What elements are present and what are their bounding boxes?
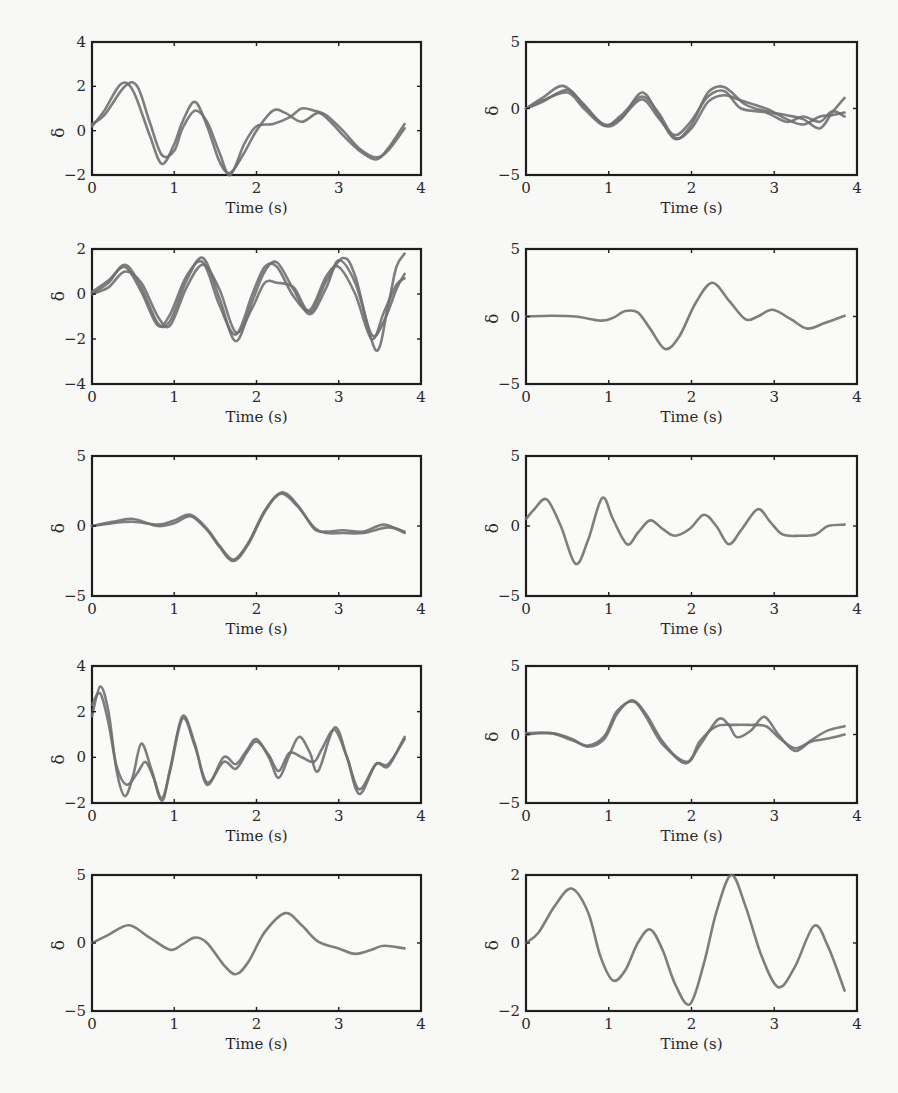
y-tick-label: 0 xyxy=(510,308,520,326)
panel-row3-right: 01234−505Time (s)δ xyxy=(482,447,862,638)
x-axis-label: Time (s) xyxy=(225,408,287,426)
y-tick-label: −5 xyxy=(64,1002,86,1020)
x-axis-label: Time (s) xyxy=(225,1035,287,1053)
x-axis-label: Time (s) xyxy=(660,408,722,426)
x-tick-label: 1 xyxy=(169,807,179,825)
x-axis-label: Time (s) xyxy=(225,827,287,845)
y-tick-label: 2 xyxy=(76,703,86,721)
x-tick-label: 3 xyxy=(334,388,344,406)
y-tick-label: 4 xyxy=(76,657,86,675)
x-tick-label: 0 xyxy=(87,807,97,825)
x-tick-label: 0 xyxy=(521,1015,531,1033)
x-tick-label: 1 xyxy=(604,179,614,197)
x-tick-label: 2 xyxy=(687,179,697,197)
plot-area xyxy=(92,249,421,384)
x-tick-label: 2 xyxy=(252,388,262,406)
x-tick-label: 0 xyxy=(87,388,97,406)
y-tick-label: −5 xyxy=(64,587,86,605)
x-tick-label: 3 xyxy=(769,1015,779,1033)
x-tick-label: 4 xyxy=(852,600,862,618)
y-tick-label: 0 xyxy=(510,726,520,744)
y-tick-label: 4 xyxy=(76,33,86,51)
x-tick-label: 0 xyxy=(521,807,531,825)
plot-area xyxy=(526,666,857,803)
y-tick-label: 0 xyxy=(510,100,520,118)
y-tick-label: 0 xyxy=(76,122,86,140)
y-tick-label: 0 xyxy=(76,285,86,303)
plot-area xyxy=(92,875,421,1011)
x-tick-label: 2 xyxy=(252,1015,262,1033)
x-tick-label: 3 xyxy=(334,600,344,618)
y-axis-label: δ xyxy=(48,523,68,533)
y-tick-label: −5 xyxy=(498,587,520,605)
panel-row2-left: 01234−4−202Time (s)δ xyxy=(48,240,426,426)
x-tick-label: 4 xyxy=(416,600,426,618)
x-tick-label: 2 xyxy=(252,807,262,825)
y-tick-label: 0 xyxy=(510,517,520,535)
x-tick-label: 0 xyxy=(521,600,531,618)
y-axis-label: δ xyxy=(48,291,68,301)
y-tick-label: 0 xyxy=(76,748,86,766)
plot-area xyxy=(526,42,857,175)
y-tick-label: −2 xyxy=(498,1002,520,1020)
x-tick-label: 1 xyxy=(169,179,179,197)
x-tick-label: 2 xyxy=(687,388,697,406)
x-tick-label: 2 xyxy=(252,179,262,197)
y-axis-label: δ xyxy=(48,754,68,764)
y-tick-label: −2 xyxy=(64,330,86,348)
y-tick-label: 5 xyxy=(76,866,86,884)
y-axis-label: δ xyxy=(482,940,502,950)
panel-row1-left: 01234−2024Time (s)δ xyxy=(48,33,426,217)
y-tick-label: −2 xyxy=(64,166,86,184)
x-tick-label: 3 xyxy=(769,179,779,197)
y-axis-label: δ xyxy=(482,523,502,533)
y-axis-label: δ xyxy=(482,105,502,115)
x-tick-label: 3 xyxy=(769,600,779,618)
panel-row4-left: 01234−2024Time (s)δ xyxy=(48,657,426,845)
panel-row1-right: 01234−505Time (s)δ xyxy=(482,33,862,217)
y-tick-label: −5 xyxy=(498,794,520,812)
x-tick-label: 4 xyxy=(852,1015,862,1033)
x-axis-label: Time (s) xyxy=(660,199,722,217)
x-tick-label: 3 xyxy=(769,807,779,825)
y-tick-label: 5 xyxy=(510,657,520,675)
figure-canvas: 01234−2024Time (s)δ01234−505Time (s)δ012… xyxy=(0,0,898,1093)
x-tick-label: 0 xyxy=(87,600,97,618)
y-tick-label: 5 xyxy=(510,447,520,465)
x-tick-label: 1 xyxy=(169,1015,179,1033)
x-tick-label: 1 xyxy=(169,388,179,406)
x-tick-label: 0 xyxy=(521,388,531,406)
x-tick-label: 0 xyxy=(521,179,531,197)
x-axis-label: Time (s) xyxy=(660,620,722,638)
y-tick-label: 0 xyxy=(76,517,86,535)
x-tick-label: 4 xyxy=(416,179,426,197)
x-tick-label: 2 xyxy=(687,1015,697,1033)
x-tick-label: 4 xyxy=(852,179,862,197)
x-tick-label: 1 xyxy=(604,600,614,618)
x-tick-label: 2 xyxy=(687,600,697,618)
y-axis-label: δ xyxy=(482,313,502,323)
x-tick-label: 0 xyxy=(87,1015,97,1033)
y-axis-label: δ xyxy=(48,128,68,138)
x-tick-label: 2 xyxy=(252,600,262,618)
y-tick-label: −4 xyxy=(64,375,86,393)
panel-row5-left: 01234−505Time (s)δ xyxy=(48,866,426,1053)
y-tick-label: 5 xyxy=(510,33,520,51)
panel-row3-left: 01234−505Time (s)δ xyxy=(48,447,426,638)
y-tick-label: 2 xyxy=(510,866,520,884)
y-tick-label: 2 xyxy=(76,77,86,95)
x-tick-label: 1 xyxy=(169,600,179,618)
x-tick-label: 0 xyxy=(87,179,97,197)
x-tick-label: 3 xyxy=(334,179,344,197)
y-tick-label: −2 xyxy=(64,794,86,812)
x-tick-label: 1 xyxy=(604,807,614,825)
x-tick-label: 3 xyxy=(334,1015,344,1033)
y-tick-label: 0 xyxy=(76,934,86,952)
x-axis-label: Time (s) xyxy=(225,620,287,638)
y-axis-label: δ xyxy=(48,940,68,950)
y-tick-label: −5 xyxy=(498,166,520,184)
x-tick-label: 3 xyxy=(334,807,344,825)
x-tick-label: 3 xyxy=(769,388,779,406)
y-tick-label: 0 xyxy=(510,934,520,952)
y-tick-label: −5 xyxy=(498,375,520,393)
